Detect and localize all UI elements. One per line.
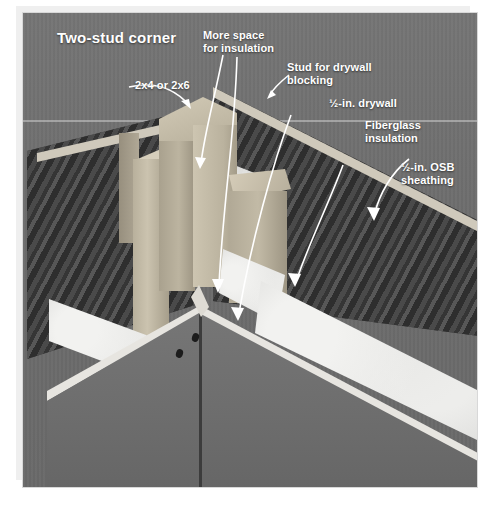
callout-2x4-or-2x6: 2x4 or 2x6	[135, 79, 190, 92]
callout-fiberglass-insulation: Fiberglass insulation	[365, 119, 421, 145]
corner-post-left-face	[159, 141, 195, 291]
callout-more-space: More space for insulation	[203, 29, 274, 55]
callout-stud-for-blocking: Stud for drywall blocking	[287, 61, 372, 87]
figure-root: Two-stud corner 2x4 or 2x6 More space fo…	[0, 0, 491, 505]
construction-photo: Two-stud corner 2x4 or 2x6 More space fo…	[23, 13, 477, 487]
drywall-corner-seam	[199, 313, 202, 487]
figure-title: Two-stud corner	[57, 29, 176, 46]
callout-half-in-drywall: ½-in. drywall	[329, 97, 397, 110]
callout-half-in-osb: ½-in. OSB sheathing	[401, 161, 454, 187]
